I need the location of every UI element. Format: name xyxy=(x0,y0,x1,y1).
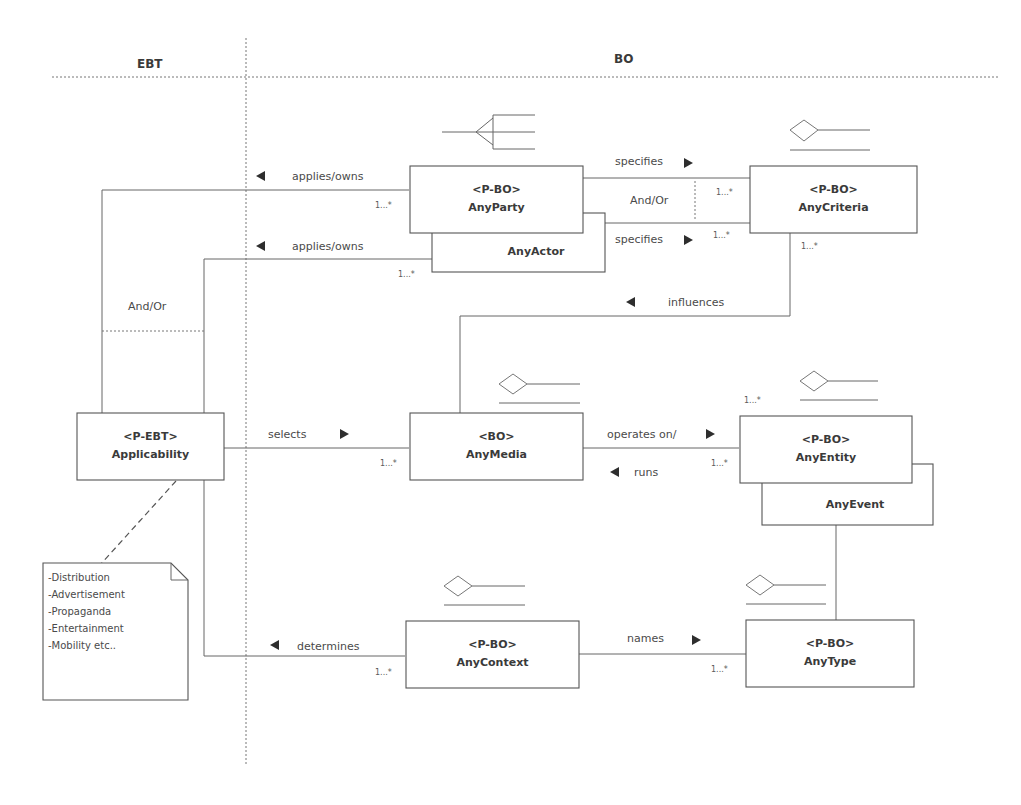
label-operates-on: operates on/ xyxy=(607,428,677,441)
class-anyactor-name: AnyActor xyxy=(508,245,565,258)
label-applies-owns-1: applies/owns xyxy=(292,170,364,183)
aggregation-diamond-icon-criteria xyxy=(790,120,870,150)
label-and-or-left: And/Or xyxy=(128,300,167,313)
class-anyentity[interactable]: <P-BO> AnyEntity xyxy=(740,416,912,483)
class-anymedia-name: AnyMedia xyxy=(466,448,527,461)
aggregation-diamond-icon-media xyxy=(499,374,580,403)
mult-entity-operates: 1...* xyxy=(711,459,728,468)
mult-context-determines: 1...* xyxy=(375,668,392,677)
class-anyentity-name: AnyEntity xyxy=(796,451,856,464)
class-anycontext-name: AnyContext xyxy=(456,656,528,669)
label-influences: influences xyxy=(668,296,724,309)
class-anyparty[interactable]: <P-BO> AnyParty xyxy=(410,166,583,233)
mult-criteria-specifies-2: 1...* xyxy=(713,231,730,240)
class-anycontext[interactable]: <P-BO> AnyContext xyxy=(406,621,579,688)
uml-diagram: EBT BO -Distribution -Advertisement -Pro… xyxy=(0,0,1021,805)
label-specifies-1: specifies xyxy=(615,155,663,168)
arrow-left-icon-determines xyxy=(270,640,279,650)
arrow-right-icon-operates xyxy=(706,429,715,439)
arrow-left-icon-applies-1 xyxy=(256,171,265,181)
arrow-left-icon-influences xyxy=(626,297,635,307)
aggregation-diamond-icon-entity xyxy=(800,371,878,400)
class-applicability[interactable]: <P-EBT> Applicability xyxy=(77,413,224,480)
arrow-left-icon-applies-2 xyxy=(256,241,265,251)
aggregation-diamond-icon-type xyxy=(746,575,826,604)
class-anytype-stereotype: <P-BO> xyxy=(806,637,855,650)
mult-type-names: 1...* xyxy=(711,665,728,674)
class-anyparty-name: AnyParty xyxy=(468,201,525,214)
note-line-5: -Mobility etc.. xyxy=(48,640,116,651)
class-anyentity-stereotype: <P-BO> xyxy=(802,433,851,446)
arrow-right-icon-specifies-2 xyxy=(684,235,693,245)
label-runs: runs xyxy=(634,466,658,479)
class-anymedia[interactable]: <BO> AnyMedia xyxy=(410,413,583,480)
note-line-2: -Advertisement xyxy=(48,589,125,600)
class-applicability-name: Applicability xyxy=(112,448,189,461)
mult-criteria-specifies-1: 1...* xyxy=(716,188,733,197)
class-anyevent-name: AnyEvent xyxy=(826,498,885,511)
mult-party-applies: 1...* xyxy=(375,201,392,210)
note-applicability-uses: -Distribution -Advertisement -Propaganda… xyxy=(43,563,188,700)
arrow-right-icon-specifies-1 xyxy=(684,158,693,168)
class-anycriteria-stereotype: <P-BO> xyxy=(809,183,858,196)
label-selects: selects xyxy=(268,428,307,441)
arrow-right-icon-names xyxy=(692,635,701,645)
mult-media-selects: 1...* xyxy=(380,459,397,468)
label-and-or-right: And/Or xyxy=(630,194,669,207)
class-applicability-stereotype: <P-EBT> xyxy=(123,430,177,443)
label-names: names xyxy=(627,632,664,645)
mult-entity-top: 1...* xyxy=(744,396,761,405)
class-anymedia-stereotype: <BO> xyxy=(478,430,514,443)
note-line-4: -Entertainment xyxy=(48,623,124,634)
label-determines: determines xyxy=(297,640,360,653)
class-anytype-name: AnyType xyxy=(804,655,856,668)
class-anyparty-stereotype: <P-BO> xyxy=(472,183,521,196)
arrow-left-icon-runs xyxy=(610,467,619,477)
note-line-1: -Distribution xyxy=(48,572,110,583)
connector-applicability-anyactor xyxy=(204,259,432,415)
note-line-3: -Propaganda xyxy=(48,606,111,617)
lane-label-bo: BO xyxy=(614,52,633,66)
class-anytype[interactable]: <P-BO> AnyType xyxy=(746,620,914,687)
mult-criteria-influences: 1...* xyxy=(801,242,818,251)
class-anycriteria[interactable]: <P-BO> AnyCriteria xyxy=(750,166,917,233)
label-specifies-2: specifies xyxy=(615,233,663,246)
lane-label-ebt: EBT xyxy=(137,57,163,71)
note-anchor-line xyxy=(100,481,176,565)
arrow-right-icon-selects xyxy=(340,429,349,439)
crowfoot-symbol-icon xyxy=(442,115,535,149)
connector-applicability-anycontext xyxy=(204,480,405,656)
class-anycontext-stereotype: <P-BO> xyxy=(468,638,517,651)
label-applies-owns-2: applies/owns xyxy=(292,240,364,253)
mult-actor-applies: 1...* xyxy=(398,270,415,279)
class-anycriteria-name: AnyCriteria xyxy=(798,201,868,214)
aggregation-diamond-icon-context xyxy=(444,576,525,605)
